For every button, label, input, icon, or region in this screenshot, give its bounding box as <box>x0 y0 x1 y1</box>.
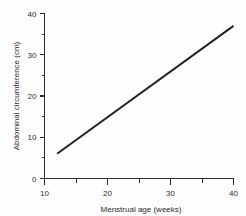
x-tick-label: 10 <box>40 189 49 198</box>
y-axis-tick-labels: 010203040 <box>28 10 37 184</box>
x-tick-label: 20 <box>103 189 112 198</box>
axes-group <box>45 14 234 179</box>
x-axis-tick-labels: 10203040 <box>40 189 238 198</box>
data-series-line <box>57 26 233 154</box>
x-tick-label: 40 <box>229 189 238 198</box>
x-tick-label: 30 <box>166 189 175 198</box>
y-tick-label: 0 <box>32 175 37 184</box>
chart-figure: 010203040 10203040 Menstrual age (weeks)… <box>0 0 246 216</box>
y-tick-label: 10 <box>28 133 37 142</box>
y-tick-label: 40 <box>28 10 37 19</box>
chart-plot-area: 010203040 10203040 Menstrual age (weeks)… <box>0 0 246 216</box>
y-axis-title: Abdominal circumference (cm) <box>12 41 21 150</box>
y-axis-ticks <box>40 14 45 179</box>
y-tick-label: 20 <box>28 92 37 101</box>
x-axis-title: Menstrual age (weeks) <box>101 205 182 214</box>
y-tick-label: 30 <box>28 51 37 60</box>
x-axis-ticks <box>45 179 234 185</box>
data-series-group <box>57 26 233 154</box>
